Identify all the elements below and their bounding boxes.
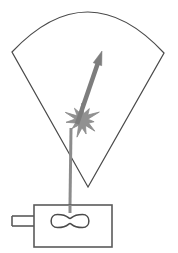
diagram-svg bbox=[0, 0, 178, 253]
figure-canvas: Line drawing: a particle travels upward … bbox=[0, 0, 178, 253]
incident-beam-line bbox=[70, 128, 71, 205]
